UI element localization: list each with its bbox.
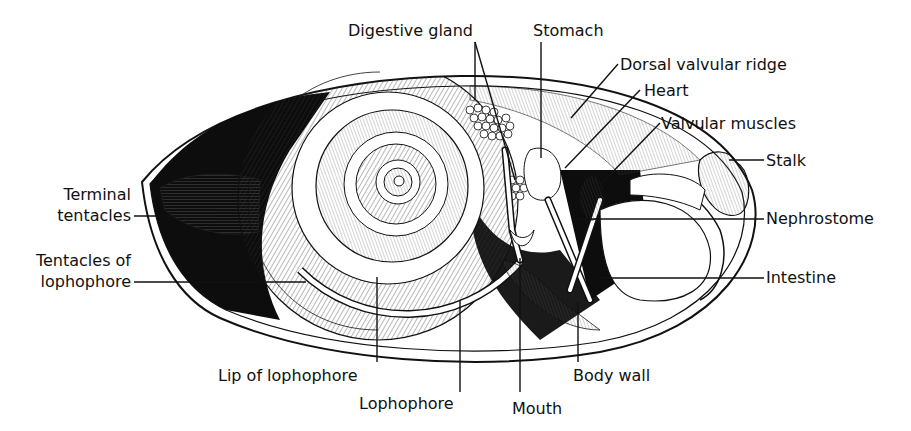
label-text: Lip of lophophore [218,366,358,385]
label-text: Body wall [573,366,650,385]
diagram-canvas: Digestive glandStomachDorsal valvular ri… [0,0,911,431]
label-text: Stalk [766,151,807,170]
label-text: Nephrostome [766,209,874,228]
label-text: Terminal [62,185,131,204]
label-text: lophophore [41,272,131,291]
label-text: Dorsal valvular ridge [620,55,787,74]
lophophore-spiral [238,60,520,340]
label-text: Lophophore [359,394,454,413]
label-text: Valvular muscles [661,114,796,133]
label-text: tentacles [57,206,131,225]
brachiopod-anatomy-diagram: Digestive glandStomachDorsal valvular ri… [0,0,911,431]
label-text: Digestive gland [348,21,473,40]
label-text: Mouth [512,399,562,418]
label-text: Tentacles of [35,251,131,270]
label-text: Heart [644,81,689,100]
label-text: Intestine [766,268,836,287]
label-text: Stomach [533,21,604,40]
